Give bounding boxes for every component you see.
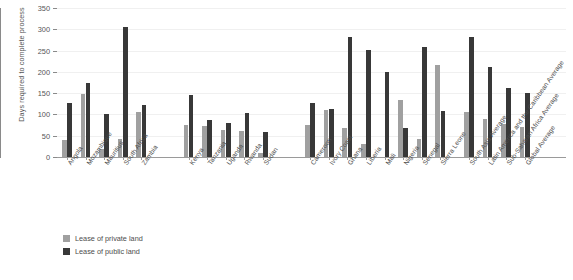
y-tick-label: 350 <box>24 4 50 13</box>
legend-label-private: Lease of private land <box>75 234 143 243</box>
y-tick-label: 150 <box>24 89 50 98</box>
bar-public <box>189 95 194 157</box>
legend-item-public[interactable]: Lease of public land <box>63 245 143 258</box>
bar-public <box>441 111 446 157</box>
bar-private <box>184 125 189 157</box>
y-tick-label: 100 <box>24 110 50 119</box>
bar-public <box>86 83 91 158</box>
bar-public <box>366 50 371 157</box>
bar-public <box>207 120 212 157</box>
bar-private <box>305 125 310 157</box>
bar-public <box>226 123 231 157</box>
bar-public <box>422 47 427 157</box>
y-tick-mark <box>53 157 57 158</box>
bar-private <box>258 153 263 157</box>
legend-swatch-private-icon <box>63 235 70 242</box>
bar-public <box>329 109 334 157</box>
bar-chart: Days required to complete process 050100… <box>0 0 573 280</box>
legend-item-private[interactable]: Lease of private land <box>63 232 143 245</box>
y-tick-label: 250 <box>24 47 50 56</box>
bar-public <box>67 103 72 157</box>
y-axis-line <box>0 8 1 158</box>
y-tick-label: 50 <box>24 132 50 141</box>
bar-private <box>62 140 67 157</box>
y-tick-label: 200 <box>24 68 50 77</box>
legend-swatch-public-icon <box>63 248 70 255</box>
y-tick-label: 300 <box>24 25 50 34</box>
bar-public <box>385 72 390 157</box>
bar-public <box>123 27 128 157</box>
bar-public <box>245 113 250 157</box>
bar-public <box>310 103 315 157</box>
bar-public <box>506 88 511 157</box>
y-tick-label: 0 <box>24 153 50 162</box>
bar-public <box>469 37 474 157</box>
legend: Lease of private land Lease of public la… <box>63 232 143 258</box>
legend-label-public: Lease of public land <box>75 247 140 256</box>
bar-private <box>398 100 403 157</box>
